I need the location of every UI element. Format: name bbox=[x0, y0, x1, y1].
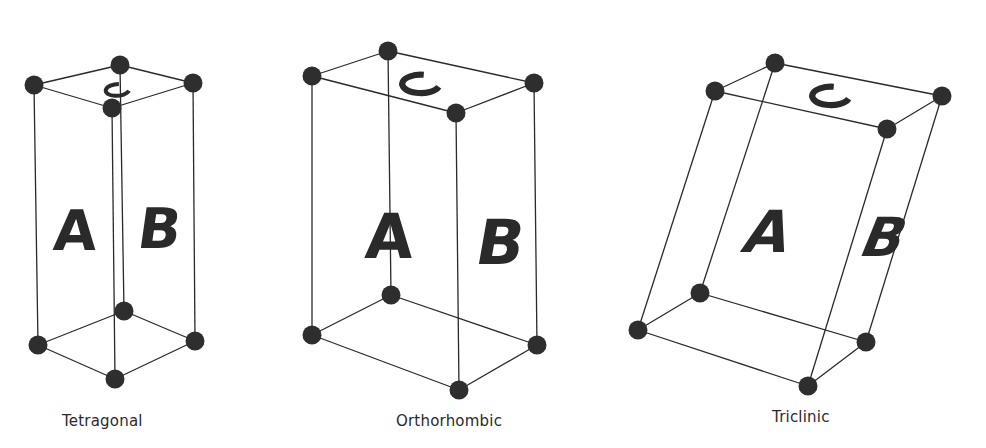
face-label-b: B bbox=[851, 206, 917, 268]
face-label-c bbox=[105, 83, 129, 97]
cell-edge bbox=[124, 311, 195, 341]
lattice-atom bbox=[303, 326, 322, 345]
cell-edge bbox=[34, 85, 112, 108]
face-label-a: A bbox=[363, 200, 416, 273]
cell-edge bbox=[808, 342, 866, 386]
cell-edge bbox=[534, 83, 537, 345]
caption-orthorhombic: Orthorhombic bbox=[396, 412, 502, 430]
cell-edge bbox=[34, 85, 38, 345]
unit-cell-orthorhombic: AB bbox=[303, 42, 547, 400]
cell-edge bbox=[459, 345, 537, 390]
crystal-systems-diagram: ABABAB bbox=[0, 0, 986, 448]
lattice-atom bbox=[103, 99, 122, 118]
caption-tetragonal: Tetragonal bbox=[62, 412, 143, 430]
lattice-atom bbox=[382, 286, 401, 305]
unit-cell-tetragonal: AB bbox=[25, 56, 205, 389]
lattice-atom bbox=[106, 370, 125, 389]
lattice-atom bbox=[111, 56, 130, 75]
lattice-atom bbox=[29, 336, 48, 355]
lattice-atom bbox=[115, 302, 134, 321]
cell-edge bbox=[38, 311, 124, 345]
face-label-c bbox=[402, 75, 438, 93]
lattice-atom bbox=[379, 42, 398, 61]
lattice-atom bbox=[799, 377, 818, 396]
face-label-c bbox=[812, 87, 848, 105]
face-label-b: B bbox=[471, 206, 531, 278]
cell-edge bbox=[312, 51, 388, 76]
lattice-atom bbox=[706, 82, 725, 101]
lattice-atom bbox=[450, 381, 469, 400]
cell-edge bbox=[456, 83, 534, 113]
cell-edge bbox=[312, 76, 456, 113]
lattice-atom bbox=[186, 332, 205, 351]
unit-cell-triclinic: AB bbox=[629, 54, 952, 396]
cell-edge bbox=[38, 345, 115, 379]
cell-edge bbox=[456, 113, 459, 390]
lattice-atom bbox=[528, 336, 547, 355]
cell-edge bbox=[312, 295, 391, 335]
cell-edge bbox=[638, 330, 808, 386]
cell-edge bbox=[638, 293, 700, 330]
cell-edge bbox=[391, 295, 537, 345]
face-label-b: B bbox=[134, 196, 186, 261]
face-label-a: A bbox=[735, 198, 802, 265]
cell-edge bbox=[112, 108, 115, 379]
lattice-atom bbox=[25, 76, 44, 95]
lattice-atom bbox=[447, 104, 466, 123]
cell-edge bbox=[700, 293, 866, 342]
caption-triclinic: Triclinic bbox=[772, 408, 830, 426]
cell-edge bbox=[120, 65, 124, 311]
cell-edge bbox=[715, 63, 775, 91]
cell-edge bbox=[193, 83, 195, 341]
cell-edge bbox=[312, 335, 459, 390]
lattice-atom bbox=[857, 333, 876, 352]
lattice-atom bbox=[766, 54, 785, 73]
cell-edge bbox=[715, 91, 887, 129]
lattice-atom bbox=[878, 120, 897, 139]
lattice-atom bbox=[691, 284, 710, 303]
lattice-atom bbox=[184, 74, 203, 93]
cell-edge bbox=[34, 65, 120, 85]
lattice-atom bbox=[303, 67, 322, 86]
lattice-atom bbox=[933, 87, 952, 106]
face-label-a: A bbox=[51, 198, 99, 263]
cell-edge bbox=[115, 341, 195, 379]
lattice-atom bbox=[525, 74, 544, 93]
cell-edge bbox=[775, 63, 942, 96]
lattice-atom bbox=[629, 321, 648, 340]
cell-edge bbox=[120, 65, 193, 83]
